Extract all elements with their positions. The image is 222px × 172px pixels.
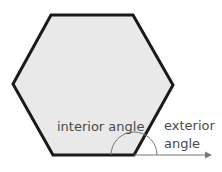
exterior-angle-label-line1: exterior <box>164 118 215 133</box>
hexagon <box>13 15 173 155</box>
interior-angle-label: interior angle <box>57 119 144 134</box>
exterior-angle-label-line2: angle <box>164 136 200 151</box>
arrowhead-icon <box>205 152 212 159</box>
hexagon-angle-diagram: interior angle exterior angle <box>0 0 222 172</box>
